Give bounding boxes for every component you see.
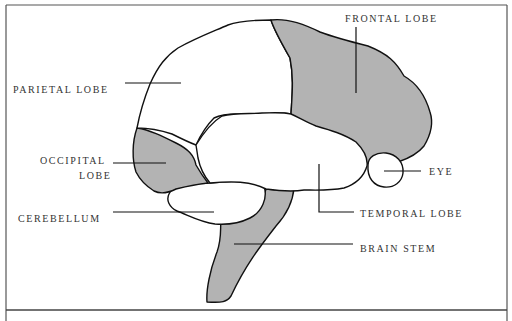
eye-region xyxy=(368,153,403,187)
eye-label: EYE xyxy=(429,166,453,177)
cerebellum-label: CEREBELLUM xyxy=(18,213,101,224)
frontal-lobe-label: FRONTAL LOBE xyxy=(345,13,438,24)
brain-diagram: FRONTAL LOBE PARIETAL LOBE OCCIPITAL LOB… xyxy=(0,0,512,321)
temporal-lobe-label: TEMPORAL LOBE xyxy=(360,208,463,219)
occipital-lobe-label-line2: LOBE xyxy=(79,170,112,181)
parietal-lobe-label: PARIETAL LOBE xyxy=(13,84,109,95)
brain-stem-label: BRAIN STEM xyxy=(360,243,436,254)
occipital-lobe-label-line1: OCCIPITAL xyxy=(40,155,106,166)
